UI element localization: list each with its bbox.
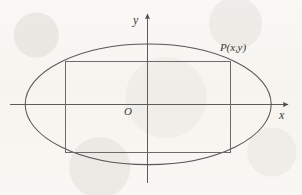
ellipse-rectangle-figure: y x O P(x,y) (0, 0, 302, 195)
point-p-label: P(x,y) (220, 42, 246, 53)
x-axis-label: x (279, 109, 284, 121)
origin-label: O (124, 106, 132, 117)
y-axis-label: y (133, 14, 138, 26)
figure-canvas (0, 0, 302, 195)
